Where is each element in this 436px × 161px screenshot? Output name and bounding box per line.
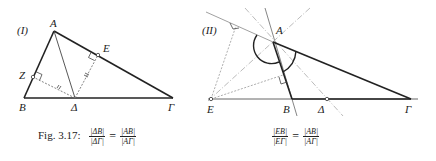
caption-left: Fig. 3.17: |ΔB||ΔΓ|=|AB||AΓ| — [38, 127, 136, 146]
panel-ii: (II) A B E Δ Γ — [202, 8, 418, 116]
panel-ii-label: (II) — [202, 24, 217, 37]
caption-prefix: Fig. 3.17: — [38, 129, 80, 141]
svg-text:Δ: Δ — [70, 101, 77, 113]
side-ab — [24, 31, 54, 98]
caption-right: |EB||EΓ|=|AB||AΓ| — [272, 127, 319, 146]
svg-text:Γ: Γ — [167, 101, 175, 113]
svg-text:E: E — [206, 103, 214, 115]
svg-text:E: E — [102, 42, 110, 54]
svg-text:Γ: Γ — [404, 103, 412, 115]
svg-text:Z: Z — [19, 69, 26, 81]
svg-text:Δ: Δ — [317, 103, 324, 115]
panel-i: (I) A B Δ Γ E Z — [17, 17, 175, 113]
fraction: |AB||AΓ| — [120, 127, 136, 146]
fraction: |ΔB||ΔΓ| — [89, 127, 105, 146]
svg-text:A: A — [49, 17, 57, 29]
svg-text:B: B — [283, 103, 290, 115]
fraction: |EB||EΓ| — [272, 127, 288, 146]
svg-text:B: B — [19, 101, 26, 113]
svg-text:A: A — [275, 24, 283, 36]
external-bisector — [208, 8, 310, 101]
fraction: |AB||AΓ| — [303, 127, 319, 146]
panel-i-label: (I) — [17, 24, 28, 37]
